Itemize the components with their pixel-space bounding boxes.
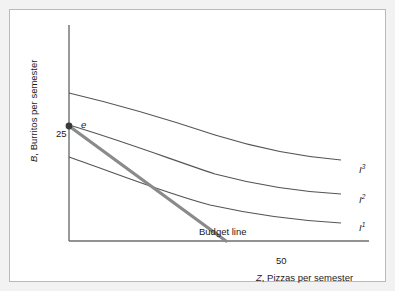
point-e-marker <box>66 123 73 130</box>
x-axis-label-text: , Pizzas per semester <box>262 272 353 283</box>
indifference-curve-label-i1: I1 <box>359 222 365 233</box>
y-axis-label-symbol: B <box>28 156 39 162</box>
indifference-curve-i2 <box>69 125 341 194</box>
y-tick-label-25: 25 <box>56 129 67 139</box>
ic1-superscript: 1 <box>362 221 366 228</box>
ic3-superscript: 3 <box>362 163 366 170</box>
indifference-curve-i3 <box>69 93 341 160</box>
chart-plot-area <box>10 10 385 281</box>
budget-line <box>69 126 226 241</box>
figure-container: B, Burritos per semester Z, Pizzas per s… <box>0 0 395 291</box>
budget-line-label: Budget line <box>199 227 247 237</box>
x-tick-label-50: 50 <box>276 256 287 266</box>
indifference-curve-label-i2: I2 <box>359 194 365 205</box>
x-axis-label: Z, Pizzas per semester <box>256 273 353 283</box>
y-axis-label: B, Burritos per semester <box>29 41 39 181</box>
chart-frame: B, Burritos per semester Z, Pizzas per s… <box>9 9 386 282</box>
ic2-superscript: 2 <box>362 193 366 200</box>
y-axis-label-text: , Burritos per semester <box>28 60 39 156</box>
indifference-curve-label-i3: I3 <box>359 164 365 175</box>
point-e-label: e <box>81 120 86 130</box>
